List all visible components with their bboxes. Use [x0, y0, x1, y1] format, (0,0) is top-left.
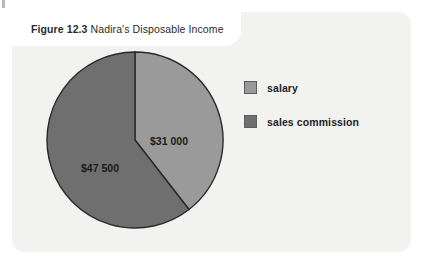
legend-item-sales-commission[interactable]: sales commission: [244, 114, 404, 129]
pie-label-sales-commission: $47 500: [81, 162, 119, 174]
chart-area: $31 000 $47 500 salary sales commission: [12, 12, 411, 252]
figure-screenshot: Figure 12.3 Nadira's Disposable Income $…: [0, 0, 423, 266]
pie-chart: $31 000 $47 500: [43, 48, 227, 232]
legend-label-salary: salary: [267, 82, 298, 94]
legend-swatch-salary: [244, 81, 257, 94]
pie-label-salary: $31 000: [150, 135, 188, 147]
figure-card: Figure 12.3 Nadira's Disposable Income $…: [12, 12, 411, 252]
legend-item-salary[interactable]: salary: [244, 80, 404, 95]
chart-legend: salary sales commission: [244, 80, 404, 148]
legend-label-sales-commission: sales commission: [267, 116, 359, 128]
legend-swatch-sales-commission: [244, 115, 257, 128]
scan-artifact: [2, 0, 5, 8]
